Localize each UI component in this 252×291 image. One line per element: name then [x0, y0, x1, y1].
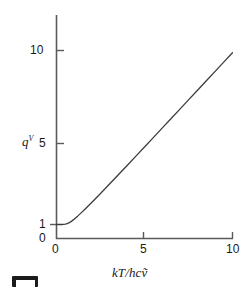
y-tick-label-0: 0 [39, 232, 46, 244]
y-tick-label-10: 10 [30, 44, 43, 56]
y-tick-label-1: 1 [39, 218, 46, 230]
x-tick-label-0: 0 [52, 243, 59, 255]
crop-mark [12, 276, 38, 287]
data-curve [57, 53, 233, 225]
crop-mark-inner [16, 280, 35, 287]
y-tick-label-5: 5 [39, 137, 46, 149]
x-tick-label-5: 5 [140, 243, 147, 255]
y-axis-label: qV [22, 135, 33, 148]
x-tick-label-10: 10 [226, 243, 239, 255]
x-axis-label: kT/hcṽ [112, 266, 147, 279]
vibrational-partition-function-chart: 10 5 1 0 0 5 10 qV kT/hcṽ [0, 0, 252, 291]
y-axis-label-superscript: V [29, 134, 34, 143]
